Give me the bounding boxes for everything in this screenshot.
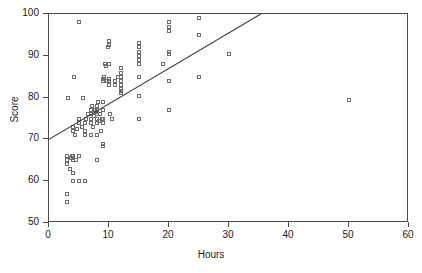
regression-line-layer — [49, 14, 409, 223]
y-tick-label: 90 — [0, 50, 39, 60]
regression-line — [49, 14, 261, 139]
x-tick-label: 40 — [273, 230, 303, 240]
x-tick-label: 20 — [153, 230, 183, 240]
plot-area — [48, 13, 408, 222]
x-tick-label: 0 — [33, 230, 63, 240]
y-tick-label: 70 — [0, 133, 39, 143]
y-tick-label: 50 — [0, 217, 39, 227]
y-axis-label: Score — [9, 80, 20, 140]
y-tick-label: 60 — [0, 175, 39, 185]
x-tick-label: 30 — [213, 230, 243, 240]
x-tick-label: 10 — [93, 230, 123, 240]
x-tick-label: 50 — [333, 230, 363, 240]
chart-title — [0, 0, 422, 3]
x-axis-label: Hours — [0, 249, 422, 260]
y-tick-label: 80 — [0, 92, 39, 102]
y-tick-label: 100 — [0, 8, 39, 18]
scatter-plot-figure: Score Hours 5060708090100 0102030405060 — [0, 0, 422, 273]
x-tick-label: 60 — [393, 230, 422, 240]
